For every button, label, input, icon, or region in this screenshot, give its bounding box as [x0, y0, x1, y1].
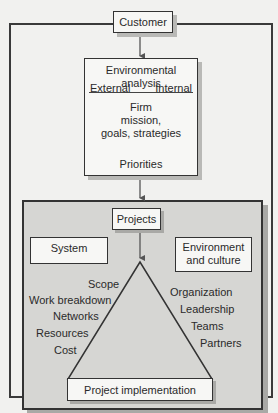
customer-label: Customer — [119, 16, 167, 28]
customer-box: Customer — [113, 11, 173, 33]
culture-label: and culture — [176, 254, 251, 267]
environment-culture-box: Environment and culture — [175, 237, 252, 272]
system-box: System — [30, 237, 108, 264]
cost-label: Cost — [54, 344, 77, 357]
project-implementation-label: Project implementation — [84, 384, 196, 396]
teams-label: Teams — [191, 320, 223, 333]
resources-label: Resources — [36, 327, 89, 340]
organization-label: Organization — [170, 286, 232, 299]
mission-label: mission, — [85, 114, 197, 127]
firm-label: Firm — [85, 101, 197, 114]
projects-label: Projects — [117, 213, 157, 225]
work-breakdown-label: Work breakdown — [29, 294, 111, 307]
external-label: External — [90, 82, 130, 95]
internal-label: Internal — [155, 82, 192, 95]
environmental-analysis-box: Environmental analysis External Internal… — [84, 58, 198, 176]
scope-label: Scope — [88, 278, 119, 291]
projects-box: Projects — [112, 208, 161, 230]
partners-label: Partners — [200, 337, 242, 350]
project-implementation-box: Project implementation — [67, 378, 213, 401]
priorities-label: Priorities — [85, 158, 197, 171]
networks-label: Networks — [53, 310, 99, 323]
system-label: System — [51, 242, 88, 254]
goals-strategies-label: goals, strategies — [85, 127, 197, 140]
leadership-label: Leadership — [180, 303, 234, 316]
environment-label: Environment — [176, 241, 251, 254]
